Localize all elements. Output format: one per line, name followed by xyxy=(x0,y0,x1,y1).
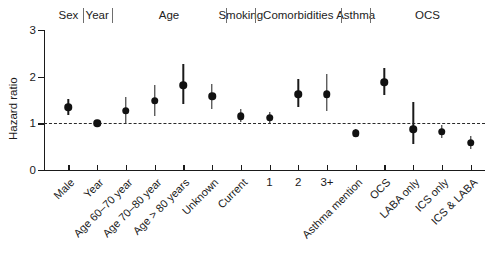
x-tick-label: 3+ xyxy=(320,176,333,188)
group-label: Smoking xyxy=(218,9,263,22)
x-tick-mark xyxy=(183,165,184,171)
x-tick-mark xyxy=(384,165,385,171)
x-tick-mark xyxy=(327,165,328,171)
x-tick-mark xyxy=(97,165,98,171)
x-tick-mark xyxy=(442,165,443,171)
data-point-marker xyxy=(122,107,130,115)
x-tick-mark xyxy=(212,165,213,171)
data-point-marker xyxy=(208,93,216,101)
data-point-marker xyxy=(237,113,245,121)
group-label: OCS xyxy=(415,9,440,22)
x-tick-mark xyxy=(241,165,242,171)
x-tick-mark xyxy=(270,165,271,171)
x-tick-mark xyxy=(68,165,69,171)
data-point-marker xyxy=(65,103,73,111)
y-tick-mark xyxy=(38,170,44,171)
data-point-marker xyxy=(467,139,475,147)
group-header-band: SexYearAgeSmokingComorbiditiesAsthmaOCS xyxy=(0,0,492,28)
group-divider xyxy=(226,8,227,23)
group-label: Sex xyxy=(58,9,78,22)
x-tick-mark xyxy=(155,165,156,171)
x-tick-label: OCS xyxy=(368,176,393,201)
y-tick-label: 0 xyxy=(30,164,36,176)
group-label: Age xyxy=(159,9,179,22)
x-tick-label: Year xyxy=(81,176,105,200)
group-label: Year xyxy=(86,9,109,22)
y-axis-title: Hazard ratio xyxy=(7,77,19,140)
x-tick-label: Current xyxy=(215,176,249,210)
data-point-marker xyxy=(266,114,274,122)
reference-line-hr-1 xyxy=(44,123,485,124)
data-point-marker xyxy=(151,97,159,105)
y-tick-mark xyxy=(38,77,44,78)
x-tick-mark xyxy=(126,165,127,171)
x-tick-label: Male xyxy=(52,176,77,201)
x-tick-mark xyxy=(356,165,357,171)
data-point-marker xyxy=(381,79,389,87)
group-divider xyxy=(112,8,113,23)
group-divider xyxy=(341,8,342,23)
data-point-marker xyxy=(180,81,188,89)
x-axis-line xyxy=(44,170,485,171)
group-divider xyxy=(83,8,84,23)
y-tick-label: 2 xyxy=(30,71,36,83)
x-tick-mark xyxy=(413,165,414,171)
data-point-marker xyxy=(409,126,417,134)
x-tick-mark xyxy=(298,165,299,171)
confidence-interval-bar xyxy=(412,102,413,144)
data-point-marker xyxy=(295,91,303,99)
data-point-marker xyxy=(352,129,360,137)
group-label: Comorbidities xyxy=(263,9,333,22)
y-tick-label: 3 xyxy=(30,24,36,36)
data-point-marker xyxy=(323,91,331,99)
y-tick-mark xyxy=(38,30,44,31)
x-tick-mark xyxy=(471,165,472,171)
x-tick-label: 1 xyxy=(266,176,272,188)
data-point-marker xyxy=(93,120,101,128)
group-divider xyxy=(370,8,371,23)
y-tick-label: 1 xyxy=(30,117,36,129)
forest-plot-figure: SexYearAgeSmokingComorbiditiesAsthmaOCS … xyxy=(0,0,492,254)
y-tick-mark xyxy=(38,123,44,124)
x-tick-label: 2 xyxy=(295,176,301,188)
group-divider xyxy=(255,8,256,23)
data-point-marker xyxy=(438,128,446,136)
y-axis-line xyxy=(44,30,45,171)
